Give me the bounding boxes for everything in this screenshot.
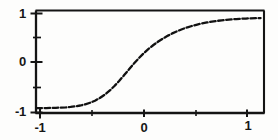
- x-tick-label-right: 1: [236, 119, 260, 132]
- data-series-sigmoid: [37, 18, 261, 108]
- y-tick-label-mid: 0: [8, 55, 26, 68]
- chart-figure: 1 0 -1 -1 0 1: [0, 0, 278, 140]
- x-tick-label-left: -1: [28, 121, 52, 134]
- axis-frame: [36, 11, 265, 114]
- y-tick-label-bottom: -1: [4, 105, 26, 118]
- x-tick-label-center: 0: [132, 121, 156, 134]
- y-tick-label-top: 1: [8, 7, 26, 20]
